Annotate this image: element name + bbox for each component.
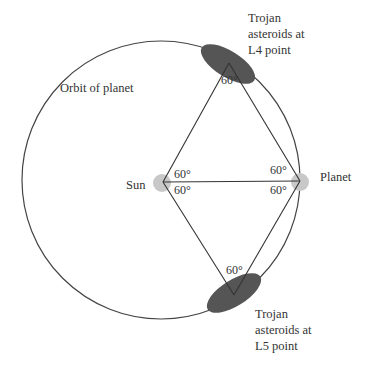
angle-sun-lower: 60° [174, 183, 191, 197]
trojan-asteroids-diagram: Orbit of planet Sun Planet Trojan astero… [0, 0, 369, 365]
l4-label-line3: L4 point [248, 43, 291, 57]
l5-label-line2: asteroids at [255, 323, 312, 337]
l5-label-line1: Trojan [255, 307, 289, 321]
angle-l4: 60° [221, 73, 238, 87]
angle-sun-upper: 60° [174, 167, 191, 181]
angle-planet-lower: 60° [270, 183, 287, 197]
sun-label: Sun [126, 178, 146, 192]
angle-planet-upper: 60° [270, 163, 287, 177]
l5-label-line3: L5 point [255, 339, 298, 353]
l4-label-line2: asteroids at [248, 27, 305, 41]
planet-label: Planet [320, 170, 352, 184]
angle-l5: 60° [226, 263, 243, 277]
sun [153, 174, 171, 192]
orbit-label: Orbit of planet [60, 81, 134, 95]
l4-label-line1: Trojan [248, 11, 282, 25]
